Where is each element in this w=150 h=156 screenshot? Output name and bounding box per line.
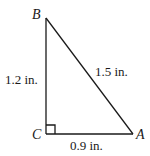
- right-triangle-diagram: B C A 1.2 in. 1.5 in. 0.9 in.: [0, 0, 150, 156]
- side-label-ba: 1.5 in.: [95, 64, 128, 79]
- vertex-label-c: C: [32, 127, 42, 142]
- side-label-ca: 0.9 in.: [70, 138, 103, 153]
- vertex-label-a: A: [135, 127, 145, 142]
- side-label-bc: 1.2 in.: [5, 72, 38, 87]
- right-angle-marker: [46, 125, 55, 134]
- vertex-label-b: B: [32, 7, 41, 22]
